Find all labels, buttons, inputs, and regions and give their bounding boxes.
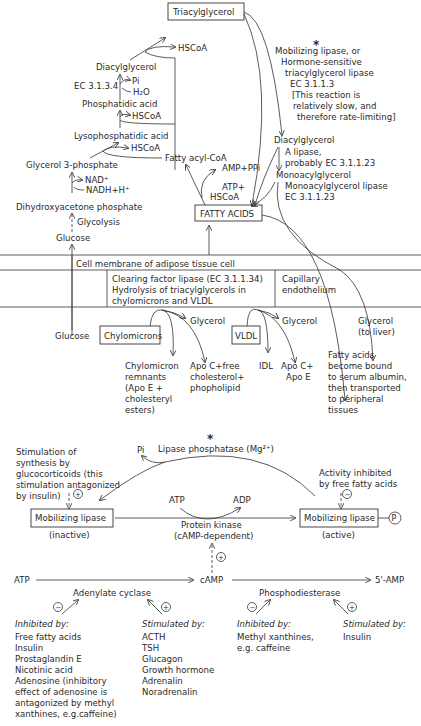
svg-text:Noradrenalin: Noradrenalin — [142, 687, 198, 697]
inactive-label: (inactive) — [49, 530, 90, 540]
glycerol2-label: Glycerol — [282, 316, 317, 326]
ac-stimulators-list: Stimulated by: ACTH TSH Glucagon Growth … — [141, 619, 214, 697]
svg-text:Stimulated by:: Stimulated by: — [142, 619, 205, 629]
arrow-atp-adp — [180, 508, 240, 519]
arrow-hscoa2 — [120, 114, 130, 117]
svg-text:Prostaglandin E: Prostaglandin E — [15, 654, 82, 664]
svg-text:Stimulated by:: Stimulated by: — [343, 619, 406, 629]
amp-ppi-label: AMP+PPi — [222, 163, 260, 173]
svg-text:glucocorticoids (this: glucocorticoids (this — [16, 469, 103, 479]
arrow-dag-to-fa — [255, 147, 278, 205]
atp-substrate-label: ATP — [14, 575, 30, 585]
hscoa3-label: HSCoA — [131, 143, 160, 153]
svg-text:Free fatty acids: Free fatty acids — [15, 632, 82, 642]
nadh-curve — [74, 187, 84, 190]
svg-text:−: − — [56, 604, 62, 612]
svg-text:cholesterol+: cholesterol+ — [190, 372, 244, 382]
svg-text:+: + — [218, 554, 224, 562]
svg-text:(to liver): (to liver) — [358, 327, 395, 337]
svg-text:Inhibited by:: Inhibited by: — [15, 619, 69, 629]
fatty-acids-albumin-note: Fatty acids become bound to serum albumi… — [328, 350, 407, 415]
svg-text:Insulin: Insulin — [15, 643, 43, 653]
apoc-apoe-note: Apo C+ Apo E — [281, 361, 314, 382]
svg-text:Fatty acids: Fatty acids — [328, 350, 375, 360]
glucocorticoid-note: Stimulation of synthesis by glucocortico… — [16, 447, 120, 501]
vldl-label: VLDL — [235, 331, 257, 341]
svg-text:+: + — [349, 604, 355, 612]
mobilizing-lipase-note: Mobilizing lipase, or Hormone-sensitive … — [275, 46, 395, 122]
svg-text:to peripheral: to peripheral — [328, 394, 383, 404]
svg-text:EC 3.1.1.23: EC 3.1.1.23 — [285, 192, 335, 202]
svg-text:e.g. caffeine: e.g. caffeine — [237, 643, 290, 653]
adenylate-cyclase-label: Adenylate cyclase — [73, 588, 151, 598]
svg-text:by free fatty acids: by free fatty acids — [319, 479, 398, 489]
svg-text:−: − — [250, 604, 256, 612]
svg-text:(cAMP-dependent): (cAMP-dependent) — [174, 531, 253, 541]
svg-text:esters): esters) — [125, 405, 155, 415]
svg-text:(Apo E +: (Apo E + — [125, 383, 163, 393]
svg-text:effect of adenosine is: effect of adenosine is — [15, 687, 108, 697]
svg-text:+: + — [163, 604, 169, 612]
svg-text:Capillary: Capillary — [282, 274, 320, 284]
svg-text:probably EC 3.1.1.23: probably EC 3.1.1.23 — [285, 158, 375, 168]
svg-text:Growth hormone: Growth hormone — [142, 665, 214, 675]
monoacylglycerol-label: Monoacylglycerol — [276, 170, 351, 180]
hscoa2-label: HSCoA — [132, 111, 161, 121]
fatty-acids-label: FATTY ACIDS — [200, 209, 254, 219]
svg-text:endothelium: endothelium — [282, 285, 336, 295]
svg-text:chylomicrons and VLDL: chylomicrons and VLDL — [112, 296, 213, 306]
h2o-curve — [122, 88, 131, 92]
svg-text:Stimulation of: Stimulation of — [16, 447, 77, 457]
atp-label: ATP+ — [222, 182, 245, 192]
chylomicrons-label: Chylomicrons — [104, 331, 163, 341]
svg-text:ACTH: ACTH — [142, 632, 165, 642]
svg-text:EC 3.1.1.3: EC 3.1.1.3 — [290, 79, 334, 89]
mobilizing-lipase-inactive-label: Mobilizing lipase — [35, 513, 106, 523]
svg-text:Apo E: Apo E — [286, 372, 311, 382]
svg-text:Apo C+: Apo C+ — [281, 361, 314, 371]
svg-text:Glycerol: Glycerol — [358, 316, 393, 326]
camp-label: cAMP — [200, 575, 223, 585]
lysophosphatidic-acid-label: Lysophosphatidic acid — [74, 131, 169, 141]
svg-text:synthesis by: synthesis by — [16, 458, 70, 468]
svg-text:Monoacylglycerol lipase: Monoacylglycerol lipase — [285, 181, 388, 191]
diacylglycerol-right-label: Diacylglycerol — [274, 135, 334, 145]
5amp-label: 5'-AMP — [375, 575, 404, 585]
arrow-hscoa3 — [103, 147, 128, 151]
svg-text:Glucagon: Glucagon — [142, 654, 183, 664]
arrow-ac-stimulate — [148, 600, 162, 614]
svg-text:−: − — [345, 491, 351, 499]
idl-label: IDL — [259, 361, 273, 371]
svg-text:Activity inhibited: Activity inhibited — [319, 468, 392, 478]
svg-text:Hormone-sensitive: Hormone-sensitive — [281, 57, 362, 67]
svg-text:A lipase,: A lipase, — [285, 147, 322, 157]
svg-text:+: + — [75, 491, 81, 499]
lipase-phosphatase-label: Lipase phosphatase (Mg²⁺) — [158, 444, 274, 454]
nad-label: NAD⁺ — [85, 175, 108, 185]
glycerol3p-label: Glycerol 3-phosphate — [26, 160, 118, 170]
arrow-tag-to-fa — [244, 14, 262, 205]
svg-text:tissues: tissues — [328, 405, 358, 415]
active-label: (active) — [322, 530, 355, 540]
svg-text:relatively slow, and: relatively slow, and — [293, 101, 376, 111]
svg-text:Adrenalin: Adrenalin — [142, 676, 183, 686]
arrow-pi — [120, 80, 130, 85]
arrow-pi-release — [142, 456, 165, 463]
diacylglycerol-left-label: Diacylglycerol — [96, 62, 156, 72]
svg-text:Methyl xanthines,: Methyl xanthines, — [237, 632, 314, 642]
ac-inhibitors-list: Inhibited by: Free fatty acids Insulin P… — [15, 619, 117, 719]
svg-text:[This reaction is: [This reaction is — [292, 90, 361, 100]
clearing-factor-note: Clearing factor lipase (EC 3.1.1.34) Hyd… — [112, 274, 263, 306]
svg-text:therefore rate-limiting]: therefore rate-limiting] — [297, 112, 395, 122]
svg-text:xanthines, e.g.caffeine): xanthines, e.g.caffeine) — [15, 709, 117, 719]
svg-text:Apo C+free: Apo C+free — [190, 361, 239, 371]
svg-text:remnants: remnants — [125, 372, 167, 382]
inhibited-ffa-note: Activity inhibited by free fatty acids — [319, 468, 398, 489]
chylomicron-remnants-note: Chylomicron remnants (Apo E + cholestery… — [125, 361, 179, 415]
svg-text:Inhibited by:: Inhibited by: — [237, 619, 291, 629]
svg-text:by insulin): by insulin) — [16, 491, 61, 501]
svg-text:Adenosine (inhibitory: Adenosine (inhibitory — [15, 676, 107, 686]
glycerol1-label: Glycerol — [190, 316, 225, 326]
a-lipase-note: A lipase, probably EC 3.1.1.23 — [285, 147, 375, 168]
glucose-top-label: Glucose — [56, 233, 90, 243]
